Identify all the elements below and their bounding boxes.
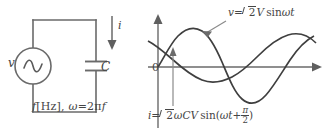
- voltage-equation-label: v=2V sinωt: [228, 6, 294, 18]
- caption-omega-frequency: f: [102, 100, 106, 113]
- source-voltage-label: v: [8, 57, 15, 69]
- voltage-waveform: [158, 28, 314, 103]
- caption-omega-equals: =2π: [78, 100, 102, 113]
- arrow-left-icon: [202, 31, 212, 38]
- current-equation-label: i=2ωCV sin(ωt+π2): [148, 106, 253, 124]
- origin-label: 0: [152, 62, 159, 73]
- capacitor-label: C: [101, 61, 110, 73]
- voltage-eq-function: sin: [266, 6, 282, 18]
- arrow-up-icon: [154, 14, 163, 24]
- arrow-right-icon: [312, 63, 322, 72]
- arrow-down-icon: [108, 16, 117, 50]
- voltage-eq-sqrt: 2: [243, 6, 257, 18]
- current-eq-function: sin: [200, 109, 216, 121]
- current-eq-argument: ωt: [220, 109, 233, 121]
- arrow-up-icon: [170, 47, 177, 56]
- current-eq-plus: +: [233, 109, 242, 121]
- circuit-panel: v C i f[Hz], ω=2πf: [0, 0, 152, 132]
- current-eq-phase-denominator: 2: [241, 115, 249, 125]
- caption-frequency-unit: [Hz],: [36, 100, 64, 113]
- ac-source-sine-icon: [15, 48, 51, 84]
- figure-root: v C i f[Hz], ω=2πf: [0, 0, 324, 132]
- current-eq-sqrt: 2: [160, 109, 174, 121]
- voltage-eq-radicand: 2: [248, 6, 257, 18]
- frequency-caption: f[Hz], ω=2πf: [32, 101, 106, 112]
- current-eq-radicand: 2: [165, 109, 174, 121]
- current-eq-phase-numerator: π: [241, 106, 249, 115]
- voltage-eq-amplitude: V: [256, 6, 264, 18]
- current-eq-phase-fraction: π2: [241, 106, 249, 124]
- caption-omega-symbol: ω: [68, 100, 77, 113]
- current-eq-close-paren: ): [249, 109, 253, 121]
- current-eq-amplitude: ωCV: [174, 109, 198, 121]
- current-label: i: [118, 20, 122, 31]
- voltage-leader-line: [206, 21, 226, 33]
- voltage-eq-argument: ωt: [282, 6, 295, 18]
